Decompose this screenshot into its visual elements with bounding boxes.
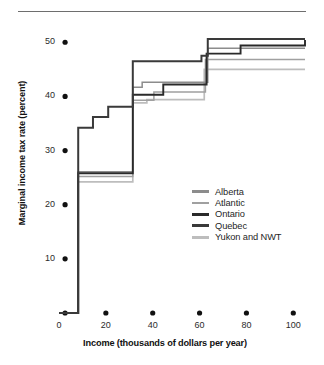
legend-swatch-icon [192, 236, 209, 239]
x-axis-title: Income (thousands of dollars per year) [30, 338, 300, 348]
y-tick-dot [62, 256, 67, 261]
y-tick-label: 10 [29, 253, 55, 263]
x-tick-dot [197, 310, 202, 315]
legend-item-alberta: Alberta [192, 186, 312, 197]
legend-swatch-icon [192, 213, 209, 216]
legend: Alberta Atlantic Ontario Quebec Yukon an… [192, 186, 312, 243]
y-axis-title: Marginal income tax rate (percent) [17, 58, 27, 248]
x-tick-label: 20 [91, 320, 121, 330]
step-line-chart-svg [0, 0, 324, 365]
y-tick-dot [62, 40, 67, 45]
x-tick-dot [244, 310, 249, 315]
x-tick-dot [150, 310, 155, 315]
y-tick-label: 40 [29, 90, 55, 100]
y-tick-label: 20 [29, 199, 55, 209]
series-line-alberta [59, 48, 305, 313]
y-tick-label: 30 [29, 145, 55, 155]
legend-item-label: Quebec [215, 221, 247, 231]
legend-item-label: Atlantic [215, 198, 245, 208]
legend-swatch-icon [192, 190, 209, 193]
y-tick-dot [62, 94, 67, 99]
legend-swatch-icon [192, 224, 209, 227]
x-tick-label: 60 [185, 320, 215, 330]
legend-item-ontario: Ontario [192, 209, 312, 220]
y-tick-dot [62, 148, 67, 153]
legend-item-label: Alberta [215, 187, 244, 197]
y-tick-label: 50 [29, 36, 55, 46]
x-tick-label: 40 [138, 320, 168, 330]
plot-area [0, 0, 324, 365]
x-tick-dot [291, 310, 296, 315]
x-tick-dot [103, 310, 108, 315]
y-tick-dot [62, 202, 67, 207]
x-tick-label: 0 [44, 320, 74, 330]
x-tick-label: 100 [278, 320, 308, 330]
figure-container: Marginal income tax rate (percent) Incom… [0, 0, 324, 365]
legend-item-label: Ontario [215, 209, 245, 219]
legend-item-atlantic: Atlantic [192, 197, 312, 208]
legend-item-quebec: Quebec [192, 220, 312, 231]
legend-item-label: Yukon and NWT [215, 232, 281, 242]
legend-swatch-icon [192, 202, 209, 205]
legend-item-yukon-nwt: Yukon and NWT [192, 232, 312, 243]
x-tick-label: 80 [231, 320, 261, 330]
